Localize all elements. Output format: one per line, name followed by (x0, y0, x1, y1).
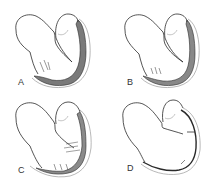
heart-panel-a: A (0, 0, 109, 92)
panel-label-a: A (18, 78, 24, 87)
heart-diagram-b (109, 0, 218, 92)
heart-panel-c: C (0, 92, 109, 184)
panel-label-c: C (18, 166, 25, 175)
heart-diagram-d (109, 92, 218, 184)
heart-panel-d: D (109, 92, 218, 184)
panel-label-d: D (127, 164, 134, 173)
heart-diagram-c (0, 92, 109, 184)
heart-diagram-a (0, 0, 109, 92)
heart-panel-b: B (109, 0, 218, 92)
panel-label-b: B (127, 78, 133, 87)
